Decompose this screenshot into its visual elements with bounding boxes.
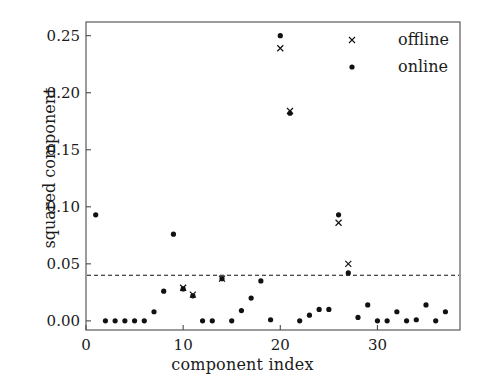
- legend-marker-offline: [349, 37, 355, 43]
- data-point: [161, 289, 166, 294]
- series-offline: [180, 45, 351, 297]
- data-point: [443, 309, 448, 314]
- data-point: [365, 302, 370, 307]
- data-point: [190, 293, 195, 298]
- data-point: [93, 212, 98, 217]
- legend-label-offline: offline: [398, 30, 449, 49]
- data-point: [394, 309, 399, 314]
- data-point: [219, 276, 224, 281]
- y-tick-label: 0.10: [20, 198, 80, 216]
- data-point: [297, 318, 302, 323]
- data-point: [385, 318, 390, 323]
- data-point: [210, 318, 215, 323]
- data-point: [171, 232, 176, 237]
- data-point: [142, 318, 147, 323]
- data-point: [326, 307, 331, 312]
- y-tick-label: 0.15: [20, 141, 80, 159]
- data-point: [122, 318, 127, 323]
- data-point: [268, 317, 273, 322]
- data-point: [433, 318, 438, 323]
- x-tick-label: 10: [158, 336, 208, 354]
- y-tick-label: 0.05: [20, 255, 80, 273]
- data-point: [278, 33, 283, 38]
- data-point: [336, 212, 341, 217]
- data-point: [239, 308, 244, 313]
- data-point: [113, 318, 118, 323]
- legend-label-online: online: [398, 57, 448, 76]
- x-tick-label: 0: [61, 336, 111, 354]
- data-point: [287, 111, 292, 116]
- data-point: [414, 317, 419, 322]
- x-tick-label: 20: [255, 336, 305, 354]
- legend-marker-online: [349, 64, 354, 69]
- y-tick-label: 0.00: [20, 312, 80, 330]
- data-point: [277, 45, 283, 51]
- data-point: [317, 307, 322, 312]
- data-point: [404, 318, 409, 323]
- data-point: [346, 270, 351, 275]
- series-online: [93, 33, 448, 323]
- y-tick-label: 0.25: [20, 27, 80, 45]
- data-point: [249, 295, 254, 300]
- data-point: [181, 286, 186, 291]
- y-axis-label: squared component: [40, 18, 59, 318]
- x-axis-label: component index: [0, 355, 485, 374]
- data-point: [307, 313, 312, 318]
- data-point: [103, 318, 108, 323]
- data-point: [132, 318, 137, 323]
- data-point: [151, 309, 156, 314]
- data-point: [423, 302, 428, 307]
- y-tick-label: 0.20: [20, 84, 80, 102]
- data-point: [375, 318, 380, 323]
- data-point: [345, 261, 351, 267]
- data-point: [336, 220, 342, 226]
- x-tick-label: 30: [352, 336, 402, 354]
- data-point: [258, 278, 263, 283]
- data-point: [229, 318, 234, 323]
- scatter-plot-figure: component index squared component 0.000.…: [0, 0, 485, 387]
- data-point: [200, 318, 205, 323]
- data-point: [355, 315, 360, 320]
